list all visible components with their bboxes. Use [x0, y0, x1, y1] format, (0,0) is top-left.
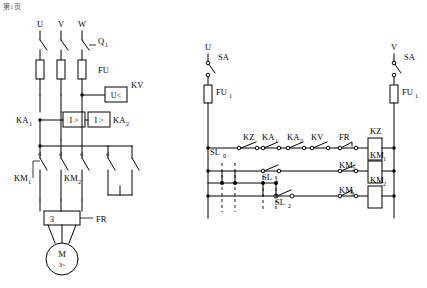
- phase-label-u: U: [37, 19, 43, 29]
- row1-kz-blade: [241, 142, 256, 148]
- row2-sl1-blade: [264, 165, 278, 171]
- ctrl-fuse-right-label: FU: [402, 87, 413, 97]
- ka2-label: KA: [113, 115, 126, 125]
- km2-coil-sub: 2: [383, 181, 386, 187]
- row1-ka2-node-b: [302, 146, 306, 150]
- km1-contact-u: [40, 158, 47, 170]
- ctrl-sa-left-node: [206, 73, 210, 77]
- row1-fr-node-b: [354, 146, 358, 150]
- phase-label-w: W: [78, 19, 86, 29]
- ctrl-fuse-left-label: FU: [216, 87, 227, 97]
- breaker-blade-w: [82, 40, 89, 50]
- fuse-label: FU: [98, 65, 109, 75]
- corner-mark: 第1页: [3, 2, 21, 11]
- row1-kz-node-a: [237, 146, 241, 150]
- breaker-blade-v: [61, 40, 68, 50]
- ctrl-fuse-left-sub: 1: [229, 93, 232, 99]
- schematic-svg: 第1页 U V W Q 1 FU U< KV I > KA 1 I > KA 2: [0, 0, 427, 288]
- phase-label-v: V: [58, 19, 65, 29]
- row3-sl2-blade: [277, 190, 291, 196]
- junction-km2-tie: [38, 144, 41, 147]
- resistor-box-label: 3: [50, 215, 54, 224]
- row1-sl0-sub: 0: [223, 153, 226, 159]
- row2-sl1-node-b: [277, 169, 281, 173]
- kv-relay-symbol: U<: [111, 91, 122, 100]
- row1-ka2-blade: [289, 142, 303, 148]
- km2-contact-a: [108, 158, 115, 170]
- km2-coil-rail-junction: [392, 194, 395, 197]
- row3-km1-node-a: [338, 194, 342, 198]
- breaker-blade-u: [40, 40, 47, 50]
- ctrl-fuse-right: [390, 85, 398, 103]
- fuse-w: [78, 60, 86, 79]
- row1-kz-node-b: [255, 146, 259, 150]
- km1-coil-rail-junction: [392, 169, 395, 172]
- breaker-label: Q: [98, 36, 104, 46]
- row1-kv-node-a: [310, 146, 314, 150]
- row3-km1-node-b: [354, 194, 358, 198]
- row1-sl0-label: SL: [210, 147, 220, 157]
- motor-lead-3: [69, 225, 76, 243]
- motor-lead-1: [48, 225, 55, 243]
- row3-sl2-sub: 2: [288, 203, 291, 209]
- row2-sl1-label: SL: [262, 172, 272, 182]
- contact-mark-1: d: [38, 151, 41, 157]
- km1-contact-v: [61, 158, 68, 170]
- motor-label: M: [58, 249, 66, 259]
- row1-ka2-node-a: [286, 146, 290, 150]
- schematic-diagram: 第1页 U V W Q 1 FU U< KV I > KA 1 I > KA 2: [0, 0, 427, 288]
- row1-kv-blade: [313, 142, 327, 148]
- kv-relay-label: KV: [131, 80, 144, 90]
- motor-sub: 3~: [59, 262, 66, 268]
- km2-contact-b: [132, 158, 139, 170]
- ctrl-sa-right-pivot: [392, 61, 396, 65]
- ka1-sub: 1: [29, 121, 32, 127]
- row3-left-junction: [206, 194, 209, 197]
- row2-left-junction: [206, 169, 209, 172]
- km2-label: KM: [64, 173, 78, 183]
- row2-km2-node-a: [338, 169, 342, 173]
- row1-ka2-label: KA: [287, 132, 300, 142]
- ctrl-fuse-right-sub: 1: [415, 93, 418, 99]
- row1-ka1-blade: [264, 142, 278, 148]
- ctrl-sa-left-pivot: [206, 61, 210, 65]
- row1-fr-blade: [341, 142, 352, 148]
- km1-sub: 1: [28, 179, 31, 185]
- km1-coil-sub: 1: [383, 156, 386, 162]
- row1-fr-node-a: [338, 146, 342, 150]
- ctrl-sa-left-label: SA: [218, 52, 230, 62]
- ka1-relay-symbol: I >: [69, 116, 79, 125]
- kz-coil-rail-junction: [392, 146, 395, 149]
- km1-contact-w: [82, 158, 89, 170]
- motor-symbol: [46, 243, 78, 275]
- row1-kv-label: KV: [311, 132, 324, 142]
- row3-sl2-node-b: [290, 194, 294, 198]
- contact-mark-2: d: [59, 151, 62, 157]
- contact-mark-3: d: [80, 151, 83, 157]
- row1-ka1-node-a: [261, 146, 265, 150]
- row3-sl2-label: SL: [275, 197, 285, 207]
- row1-kv-node-b: [326, 146, 330, 150]
- ctrl-phase-u: U: [205, 42, 211, 52]
- km1-label: KM: [14, 173, 28, 183]
- row2-km2-node-b: [354, 169, 358, 173]
- row1-kz-label: KZ: [243, 132, 254, 142]
- km2-coil-box: [368, 186, 382, 208]
- ctrl-sa-right-label: SA: [404, 52, 416, 62]
- row1-ka1-node-b: [277, 146, 281, 150]
- breaker-sub: 1: [105, 42, 108, 48]
- ctrl-sa-right-node: [392, 73, 396, 77]
- km2-sub: 2: [78, 179, 81, 185]
- fuse-v: [57, 60, 65, 79]
- row1-fr-label: FR: [339, 132, 350, 142]
- thermal-relay-label: FR: [96, 214, 107, 224]
- ka2-relay-symbol: I >: [94, 116, 104, 125]
- ka1-label: KA: [16, 115, 29, 125]
- ctrl-fuse-left: [204, 85, 212, 103]
- kz-coil-label: KZ: [370, 126, 381, 136]
- fuse-u: [36, 60, 44, 79]
- ctrl-phase-v: V: [391, 42, 398, 52]
- ka2-sub: 2: [126, 121, 129, 127]
- row1-ka1-label: KA: [262, 132, 275, 142]
